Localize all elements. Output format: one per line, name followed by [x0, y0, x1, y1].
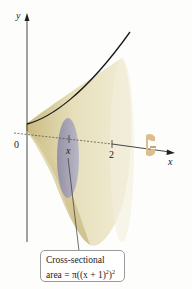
solid-body	[26, 58, 134, 246]
diagram-graphics	[0, 0, 192, 289]
y-axis-arrow-icon	[25, 13, 30, 21]
formula-expr: π((x + 1)	[72, 270, 106, 280]
rotation-arrow-icon	[146, 134, 156, 156]
y-axis-label: y	[16, 11, 20, 21]
solid-of-revolution-diagram: y 0 x 2 x Cross-sectional area = π((x + …	[0, 0, 192, 289]
x-axis-label: x	[168, 157, 172, 167]
tick-x-label: x	[66, 146, 70, 156]
x-axis-arrow-icon	[167, 150, 176, 156]
callout-formula: area = π((x + 1)2)2	[46, 266, 119, 281]
callout-line1: Cross-sectional	[46, 254, 119, 266]
cross-section-callout: Cross-sectional area = π((x + 1)2)2	[40, 250, 125, 282]
tick-2-label: 2	[109, 150, 114, 160]
origin-label: 0	[14, 140, 19, 150]
